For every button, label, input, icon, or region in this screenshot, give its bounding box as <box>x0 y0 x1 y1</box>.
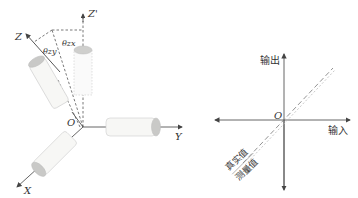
cylinder-y <box>106 118 161 136</box>
measured-value-line <box>245 70 335 165</box>
right-io-diagram: 输出 输入 O 真实值 测量值 <box>215 54 350 190</box>
origin-label: O <box>67 117 75 128</box>
cylinder-x <box>29 130 77 178</box>
origin-label-right: O <box>274 110 282 121</box>
z-prime-label: Z' <box>87 8 98 19</box>
cylinder-vertical <box>74 46 92 95</box>
cylinder-z <box>27 54 70 110</box>
x-label: X <box>23 185 32 196</box>
true-value-line <box>243 68 333 163</box>
left-3d-diagram: Z' Z Y X O θzy θzx <box>14 8 183 196</box>
theta-zx-label: θzx <box>62 39 76 48</box>
theta-zy-label: θzy <box>43 47 57 56</box>
y-label: Y <box>175 131 183 142</box>
z-label: Z <box>14 31 23 42</box>
output-label: 输出 <box>260 54 280 66</box>
input-label: 输入 <box>328 124 348 136</box>
figure: Z' Z Y X O θzy θzx 输出 输入 O 真实值 测量值 <box>0 0 358 198</box>
